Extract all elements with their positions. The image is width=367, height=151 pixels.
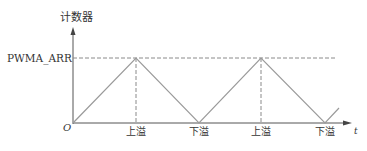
x-axis-arrow-icon [343,121,352,126]
y-axis-arrow-icon [71,27,76,35]
y-axis-label: 计数器 [60,11,93,24]
origin-label: O [63,122,71,133]
counter-waveform [73,58,339,123]
event-label-3: 上溢 [251,125,271,137]
x-axis-label: t [354,126,358,136]
counter-diagram: 计数器 PWMA_ARR O t 上溢 下溢 上溢 下溢 [0,0,367,151]
arr-level-label: PWMA_ARR [7,52,73,65]
event-label-2: 下溢 [189,125,209,137]
event-label-4: 下溢 [315,125,335,137]
event-label-1: 上溢 [126,125,146,137]
